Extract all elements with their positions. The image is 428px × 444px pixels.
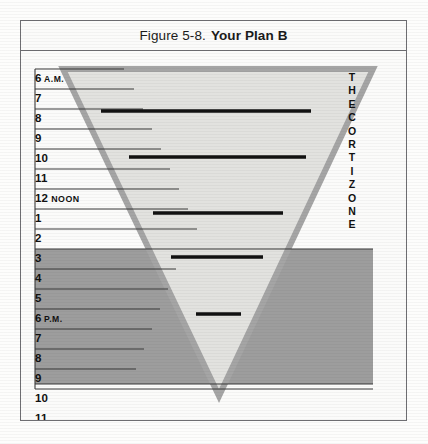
figure-root: Figure 5-8.Your Plan B <box>0 0 428 444</box>
caption-title: Your Plan B <box>211 28 288 43</box>
caption-number: Figure 5-8. <box>140 28 206 43</box>
plot-area: 6A.M. 7 8 9 10 11 12NOON <box>21 51 406 420</box>
plan-b-diagram <box>21 51 406 420</box>
caption-text: Figure 5-8.Your Plan B <box>140 28 288 43</box>
figure-caption: Figure 5-8.Your Plan B <box>21 21 406 51</box>
figure-frame: Figure 5-8.Your Plan B <box>20 20 407 421</box>
